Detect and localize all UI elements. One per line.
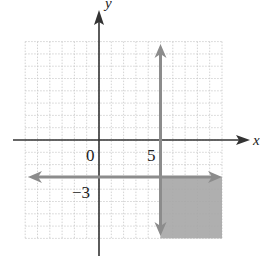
graph: y x 0 5 −3 bbox=[0, 0, 260, 269]
x-axis-label: x bbox=[252, 132, 260, 148]
tick-label-neg3: −3 bbox=[72, 183, 90, 202]
y-axis-label: y bbox=[103, 0, 112, 11]
shaded-region bbox=[161, 177, 223, 239]
tick-label-5: 5 bbox=[147, 146, 156, 165]
origin-label: 0 bbox=[86, 146, 95, 165]
